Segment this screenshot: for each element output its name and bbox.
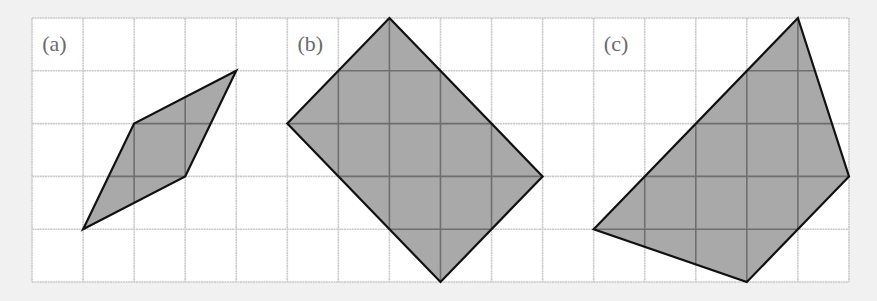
- panel-label-a: (a): [42, 31, 66, 56]
- panel-label-b: (b): [298, 31, 324, 56]
- grid-diagram: (a) (b) (c): [0, 0, 877, 301]
- panel-label-c: (c): [604, 31, 628, 56]
